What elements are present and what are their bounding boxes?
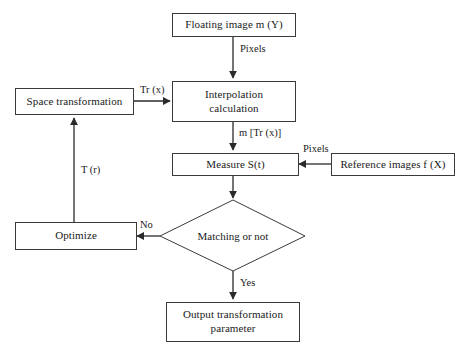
edge-label-yes: Yes	[240, 277, 255, 288]
node-output-transformation[interactable]: Output transformation parameter	[166, 302, 300, 342]
node-interpolation-calculation-label: Interpolation calculation	[205, 88, 263, 116]
node-reference-images-label: Reference images f (X)	[340, 158, 445, 172]
node-output-transformation-label: Output transformation parameter	[183, 308, 283, 336]
edge-label-pixels-right: Pixels	[303, 143, 329, 154]
edge-label-pixels-right-text: Pixels	[303, 143, 329, 154]
edge-label-yes-text: Yes	[240, 277, 255, 288]
flowchart-connectors	[0, 0, 464, 353]
edge-label-m-tr-x: m [Tr (x)]	[239, 127, 281, 138]
edge-label-no-text: No	[140, 219, 153, 230]
edge-label-t-r: T (r)	[81, 164, 100, 175]
edge-label-no: No	[140, 219, 153, 230]
decision-diamond-shape	[160, 200, 305, 271]
edge-label-pixels-top-text: Pixels	[240, 43, 266, 54]
node-optimize-label: Optimize	[55, 229, 97, 243]
node-space-transformation-label: Space transformation	[27, 95, 123, 109]
edge-label-tr-x: Tr (x)	[140, 84, 164, 95]
node-measure-st[interactable]: Measure S(t)	[172, 153, 299, 176]
edge-label-t-r-text: T (r)	[81, 164, 100, 175]
node-reference-images[interactable]: Reference images f (X)	[331, 153, 455, 176]
edge-label-tr-x-text: Tr (x)	[140, 84, 164, 95]
node-interpolation-calculation[interactable]: Interpolation calculation	[172, 81, 296, 122]
node-optimize[interactable]: Optimize	[15, 222, 137, 250]
node-floating-image-label: Floating image m (Y)	[185, 18, 283, 32]
edge-label-m-tr-x-text: m [Tr (x)]	[239, 127, 281, 138]
node-space-transformation[interactable]: Space transformation	[15, 88, 134, 115]
node-floating-image[interactable]: Floating image m (Y)	[172, 13, 296, 37]
edge-label-pixels-top: Pixels	[240, 43, 266, 54]
flowchart-canvas: Floating image m (Y) Interpolation calcu…	[0, 0, 464, 353]
node-measure-st-label: Measure S(t)	[206, 158, 264, 172]
